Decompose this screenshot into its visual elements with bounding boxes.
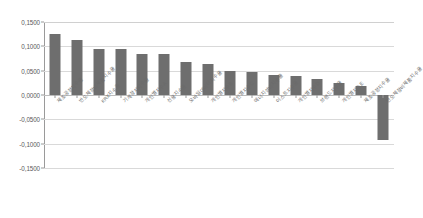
- y-tick-label: 0,1000: [21, 43, 40, 50]
- y-tick-mark: [41, 119, 44, 120]
- y-tick-mark: [41, 22, 44, 23]
- x-tick-mark: [383, 95, 384, 98]
- y-tick-label: -0,0500: [19, 116, 40, 123]
- y-axis-tick-labels: 0,15000,10000,05000,0000-0,0500-0,1000-0…: [0, 22, 40, 168]
- y-tick-mark: [41, 143, 44, 144]
- y-tick-mark: [41, 46, 44, 47]
- y-tick-mark: [41, 70, 44, 71]
- y-tick-mark: [41, 95, 44, 96]
- y-tick-label: 0,0000: [21, 92, 40, 99]
- gridline--0_15: [44, 168, 394, 169]
- y-tick-label: 0,1500: [21, 19, 40, 26]
- x-tick-mark: [208, 95, 209, 98]
- y-tick-label: 0,0500: [21, 67, 40, 74]
- y-tick-label: -0,1500: [19, 165, 40, 172]
- y-tick-mark: [41, 168, 44, 169]
- bar: [49, 34, 60, 95]
- y-tick-label: -0,1000: [19, 140, 40, 147]
